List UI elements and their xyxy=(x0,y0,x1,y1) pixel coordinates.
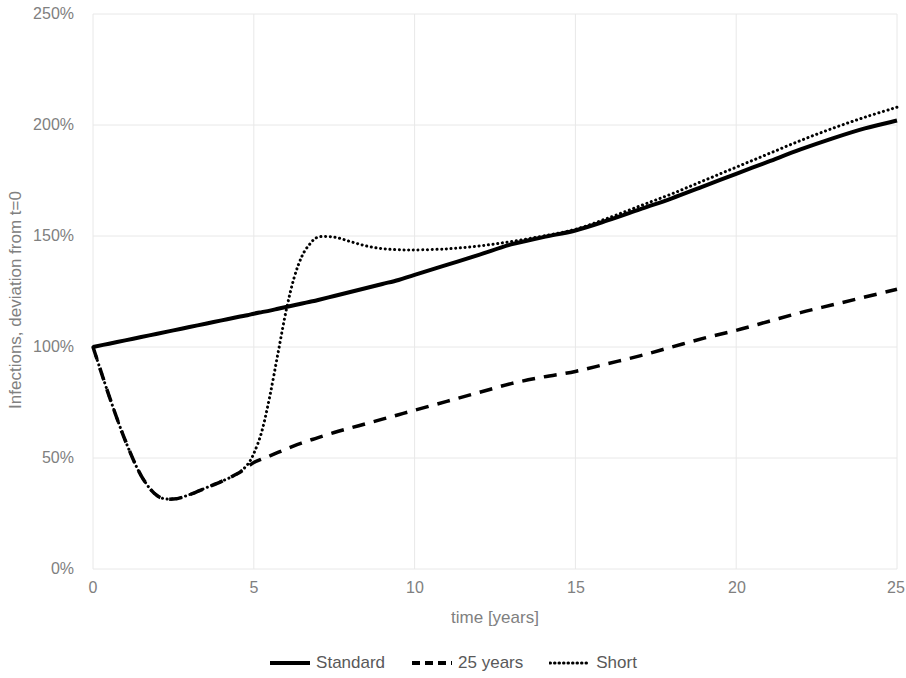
legend-item-short: Short xyxy=(549,653,637,673)
legend-item-25-years: 25 years xyxy=(411,653,523,673)
legend-label-standard: Standard xyxy=(316,653,385,673)
legend-label-short: Short xyxy=(596,653,637,673)
chart-legend: Standard 25 years Short xyxy=(0,648,906,678)
legend-swatch-solid-icon xyxy=(269,656,311,670)
series-line-standard xyxy=(93,121,897,347)
legend-label-25-years: 25 years xyxy=(458,653,523,673)
plot-area xyxy=(0,0,906,678)
series-line-short xyxy=(93,107,897,499)
legend-swatch-dotted-icon xyxy=(549,656,591,670)
legend-item-standard: Standard xyxy=(269,653,385,673)
chart-container: Infections, deviation from t=0 time [yea… xyxy=(0,0,906,678)
series-lines xyxy=(93,107,897,499)
legend-swatch-dashed-icon xyxy=(411,656,453,670)
